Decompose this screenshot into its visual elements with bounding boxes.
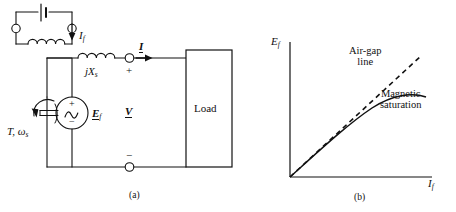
air-gap-line-annotation: Air-gap line bbox=[349, 45, 381, 68]
caption-a: (a) bbox=[129, 191, 140, 201]
load-label: Load bbox=[194, 103, 217, 114]
output-terminal-plus bbox=[125, 54, 134, 63]
synchronous-reactance-coil bbox=[78, 53, 115, 58]
field-current-label: If bbox=[79, 30, 85, 43]
emf-label: Ef bbox=[92, 108, 101, 121]
caption-b: (b) bbox=[354, 193, 365, 203]
rotation-arrowhead bbox=[32, 108, 39, 117]
generator-plus-sign: + bbox=[69, 99, 75, 109]
y-axis-label: Ef bbox=[271, 36, 280, 49]
field-circuit bbox=[12, 4, 76, 44]
generator-minus-sign: − bbox=[69, 117, 75, 127]
magnetic-saturation-annotation: Magnetic saturation bbox=[380, 88, 421, 111]
field-terminal-left bbox=[12, 24, 20, 32]
shaft-torque-speed-label: T, ωs bbox=[7, 126, 29, 139]
field-winding-coil bbox=[28, 39, 65, 44]
magnetic-saturation-text-1: Magnetic bbox=[380, 88, 421, 99]
x-axis-label: If bbox=[428, 178, 434, 191]
line-current-arrowhead bbox=[145, 55, 153, 62]
terminal-voltage-label: V bbox=[125, 106, 132, 118]
field-current-arrowhead bbox=[69, 33, 76, 41]
wire-generator-to-top bbox=[47, 58, 72, 97]
terminal-minus-sign: − bbox=[126, 150, 132, 161]
reactance-label: jXs bbox=[85, 66, 98, 79]
air-gap-line-text-1: Air-gap bbox=[349, 45, 381, 56]
air-gap-line-text-2: line bbox=[349, 56, 381, 67]
output-terminal-minus bbox=[125, 163, 134, 172]
line-current-label: I bbox=[139, 41, 143, 53]
rotor-shaft bbox=[40, 111, 58, 116]
terminal-plus-sign: + bbox=[126, 65, 132, 76]
panel-a-circuit bbox=[12, 4, 232, 171]
magnetic-saturation-text-2: saturation bbox=[380, 99, 421, 110]
